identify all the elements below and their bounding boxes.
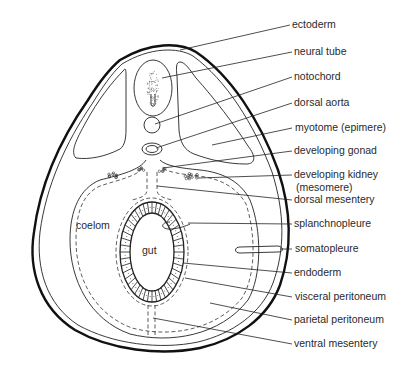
stipple-dot (153, 103, 154, 104)
endoderm-cell-wall (135, 285, 140, 294)
endoderm-cell-wall (121, 263, 131, 266)
gonad-cluster-right (158, 170, 160, 172)
endoderm-cell-wall (143, 289, 146, 300)
stipple-dot (149, 75, 150, 76)
parietal-peritoneum-line (76, 168, 253, 332)
neural-tube (134, 60, 172, 116)
stipple-dot (156, 85, 157, 86)
label-somatopleure: somatopleure (295, 242, 359, 254)
endoderm-cell-wall (173, 238, 183, 241)
endoderm-cell-nucleus (128, 273, 129, 274)
label-parietal-peritoneum: parietal peritoneum (294, 313, 384, 325)
endoderm-cell-nucleus (178, 242, 179, 243)
label-dorsal-mesentery: dorsal mesentery (294, 193, 375, 205)
endoderm-cell-wall (147, 291, 149, 302)
stipple-dot (152, 98, 153, 99)
endoderm-cell-wall (123, 268, 132, 273)
endoderm-cell-wall (171, 273, 179, 279)
embryo-cross-section-diagram: coelom gut ectoderm neural tube notochor… (0, 0, 414, 369)
stipple-dot (151, 88, 152, 89)
endoderm-cell-wall (161, 207, 165, 217)
endoderm-cell-nucleus (175, 273, 176, 274)
endoderm-cell-nucleus (135, 216, 136, 217)
endoderm-cell-wall (161, 288, 165, 298)
leader-line-myotome (212, 128, 292, 145)
endoderm-cell-nucleus (126, 236, 127, 237)
endoderm-cell-wall (155, 203, 157, 214)
stipple-dot (150, 90, 151, 91)
stipple-dot (154, 71, 155, 72)
endoderm-cell-nucleus (142, 210, 143, 211)
endoderm-cell-nucleus (132, 220, 133, 221)
endoderm-cell-wall (143, 204, 146, 215)
endoderm-cell-wall (131, 214, 138, 222)
stipple-dot (155, 82, 156, 83)
endoderm-cell-nucleus (153, 207, 154, 208)
endoderm-cell-wall (172, 268, 181, 273)
label-developing-gonad: developing gonad (294, 144, 377, 156)
stipple-dot (150, 78, 151, 79)
stipple-dot (152, 73, 153, 74)
stipple-dot (151, 81, 152, 82)
endoderm-cell-nucleus (177, 267, 178, 268)
stipple-dot (152, 100, 153, 101)
label-developing-kidney-line2: (mesomere) (296, 181, 353, 193)
endoderm-cell-nucleus (175, 230, 176, 231)
endoderm-cell-wall (155, 291, 157, 302)
endoderm-cell-nucleus (178, 248, 179, 249)
stipple-dot (152, 90, 153, 91)
label-myotome: myotome (epimere) (295, 121, 386, 133)
kidney-cluster-right (184, 175, 186, 177)
endoderm-cell-nucleus (146, 295, 147, 296)
stipple-dot (152, 73, 153, 74)
leader-line-notochord (155, 77, 292, 124)
ventral-mesentery (148, 305, 155, 338)
endoderm-cell-nucleus (157, 295, 158, 296)
leader-line-dorsal-aorta (156, 103, 292, 148)
stipple-dot (149, 81, 150, 82)
endoderm-cell-wall (128, 278, 136, 285)
endoderm-cell-wall (123, 231, 132, 236)
stipple-dot (154, 81, 155, 82)
endoderm-cell-wall (174, 245, 184, 247)
stipple-dot (157, 79, 158, 80)
stipple-dot (147, 91, 148, 92)
stipple-dot (156, 74, 157, 75)
stipple-dot (154, 90, 155, 91)
endoderm-cell-nucleus (135, 287, 136, 288)
endoderm-cell-nucleus (168, 287, 169, 288)
stipple-dot (153, 104, 154, 105)
leader-line-dorsal-mesentery (157, 186, 292, 200)
stipple-dot (152, 103, 153, 104)
stipple-dot (156, 90, 157, 91)
endoderm-cell-wall (139, 288, 143, 298)
stipple-dot (149, 85, 150, 86)
stipple-dot (153, 99, 154, 100)
stipple-dot (155, 89, 156, 90)
endoderm-cell-nucleus (150, 207, 151, 208)
stipple-dot (153, 72, 154, 73)
endoderm-cell-nucleus (171, 283, 172, 284)
leader-line-endoderm (183, 263, 292, 273)
stipple-dot (155, 80, 156, 81)
leader-line-ectoderm (180, 25, 290, 50)
endoderm-cell-nucleus (146, 208, 147, 209)
endoderm-cell-nucleus (173, 278, 174, 279)
endoderm-cell-wall (121, 238, 131, 241)
endoderm-cell-nucleus (142, 293, 143, 294)
stipple-dot (148, 92, 149, 93)
label-dorsal-aorta: dorsal aorta (294, 96, 350, 108)
stipple-dot (150, 102, 151, 103)
endoderm-cell-nucleus (171, 220, 172, 221)
label-ventral-mesentery: ventral mesentery (294, 337, 378, 349)
endoderm-cell-nucleus (153, 296, 154, 297)
endoderm-cell-wall (135, 210, 140, 219)
endoderm-cell-nucleus (125, 242, 126, 243)
stipple-dot (147, 92, 148, 93)
stipple-dot (151, 79, 152, 80)
leader-line-visceral-peritoneum (185, 278, 292, 297)
stipple-dot (148, 88, 149, 89)
stipple-dot (156, 77, 157, 78)
stipple-dot (152, 87, 153, 88)
stipple-dot (149, 87, 150, 88)
